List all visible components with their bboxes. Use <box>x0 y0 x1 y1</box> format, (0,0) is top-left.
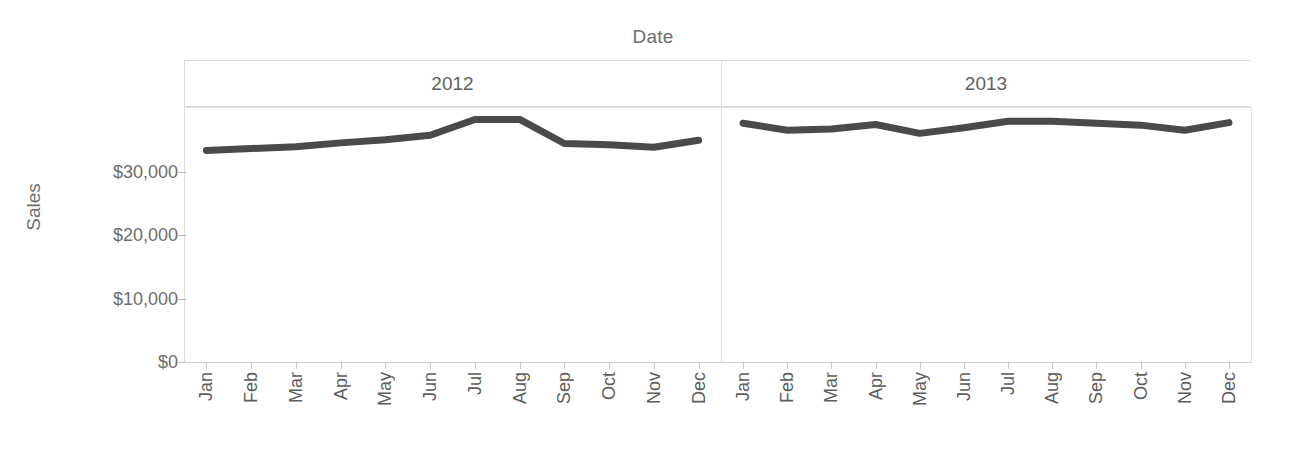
x-tick-label-oct: Oct <box>1132 372 1150 400</box>
x-tick-mark <box>743 362 744 369</box>
x-tick-mark <box>1229 362 1230 369</box>
x-tick-label-apr: Apr <box>332 372 350 400</box>
x-tick-label-jun: Jun <box>421 372 439 401</box>
year-header-2012: 2012 <box>184 61 721 107</box>
x-tick-mark <box>699 362 700 369</box>
y-tick-label: $0 <box>48 352 178 373</box>
y-tick-label: $20,000 <box>48 225 178 246</box>
x-tick-label-may: May <box>376 372 394 406</box>
x-tick-label-aug: Aug <box>511 372 529 404</box>
x-tick-label-nov: Nov <box>645 372 663 404</box>
x-tick-label-oct: Oct <box>600 372 618 400</box>
x-tick-mark <box>609 362 610 369</box>
x-tick-mark <box>1185 362 1186 369</box>
panel-2013 <box>721 107 1251 363</box>
x-tick-mark <box>654 362 655 369</box>
x-tick-label-aug: Aug <box>1043 372 1061 404</box>
plot-area <box>184 107 1251 363</box>
y-axis-tick-labels: $0$10,000$20,000$30,000 <box>40 0 178 459</box>
x-tick-label-sep: Sep <box>1087 372 1105 404</box>
sales-line-2012 <box>184 107 721 363</box>
sales-line-2013 <box>721 107 1251 363</box>
x-tick-mark <box>787 362 788 369</box>
x-tick-label-mar: Mar <box>287 372 305 403</box>
x-tick-label-dec: Dec <box>1220 372 1238 404</box>
x-tick-label-mar: Mar <box>822 372 840 403</box>
x-tick-label-jul: Jul <box>999 372 1017 395</box>
sales-by-date-line-chart: Date 2012 2013 Sales $0$10,000$20,000$30… <box>0 0 1306 459</box>
plot-right-edge <box>1251 107 1252 363</box>
x-tick-mark <box>385 362 386 369</box>
x-tick-mark <box>876 362 877 369</box>
series-line <box>206 119 698 150</box>
year-header-2013: 2013 <box>721 61 1251 107</box>
x-tick-mark <box>206 362 207 369</box>
x-tick-label-nov: Nov <box>1176 372 1194 404</box>
x-tick-mark <box>964 362 965 369</box>
x-tick-label-sep: Sep <box>555 372 573 404</box>
x-tick-mark <box>564 362 565 369</box>
panel-2012 <box>184 107 721 363</box>
x-tick-mark <box>341 362 342 369</box>
x-tick-mark <box>1141 362 1142 369</box>
x-tick-mark <box>920 362 921 369</box>
x-tick-mark <box>1096 362 1097 369</box>
x-tick-mark <box>520 362 521 369</box>
y-tick-label: $30,000 <box>48 162 178 183</box>
x-tick-mark <box>251 362 252 369</box>
x-tick-label-jun: Jun <box>955 372 973 401</box>
x-tick-mark <box>831 362 832 369</box>
year-header-band: 2012 2013 <box>184 60 1251 107</box>
y-tick-label: $10,000 <box>48 288 178 309</box>
x-tick-mark <box>296 362 297 369</box>
x-tick-label-dec: Dec <box>690 372 708 404</box>
year-header-divider <box>721 60 722 107</box>
x-tick-mark <box>1008 362 1009 369</box>
x-tick-label-apr: Apr <box>867 372 885 400</box>
x-tick-label-feb: Feb <box>778 372 796 403</box>
x-tick-mark <box>475 362 476 369</box>
x-tick-label-feb: Feb <box>242 372 260 403</box>
x-tick-label-jan: Jan <box>734 372 752 401</box>
series-line <box>743 121 1229 133</box>
x-tick-label-jan: Jan <box>197 372 215 401</box>
x-tick-mark <box>1052 362 1053 369</box>
column-axis-title: Date <box>0 26 1306 48</box>
x-tick-label-jul: Jul <box>466 372 484 395</box>
x-tick-mark <box>430 362 431 369</box>
x-tick-label-may: May <box>911 372 929 406</box>
